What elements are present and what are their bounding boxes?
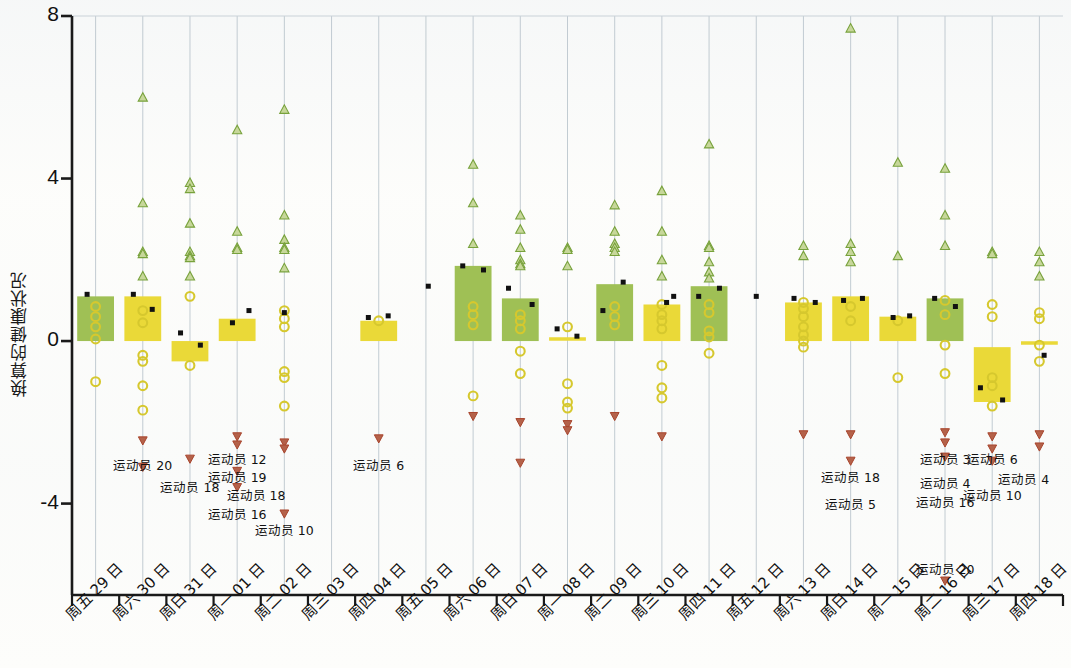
marker-square-icon: [978, 385, 983, 390]
marker-triangle-up-icon: [846, 257, 855, 266]
marker-triangle-up-icon: [846, 24, 855, 33]
marker-square-icon: [131, 292, 136, 297]
marker-square-icon: [792, 296, 797, 301]
marker-square-icon: [530, 302, 535, 307]
marker-triangle-up-icon: [233, 227, 242, 236]
marker-triangle-down-icon: [233, 433, 242, 441]
marker-triangle-up-icon: [893, 251, 902, 260]
marker-triangle-up-icon: [799, 251, 808, 260]
marker-square-icon: [460, 263, 465, 268]
marker-square-icon: [1000, 397, 1005, 402]
data-point-annotation: 运动员 18: [821, 467, 880, 486]
marker-triangle-down-icon: [799, 431, 808, 439]
marker-triangle-up-icon: [138, 198, 147, 207]
chart-root: 换算的健康状况 840-4 周五 29 日周六 30 日周日 31 日周一 01…: [0, 0, 1071, 668]
marker-triangle-up-icon: [799, 241, 808, 250]
data-point-annotation: 运动员 6: [353, 455, 404, 474]
marker-square-icon: [230, 320, 235, 325]
y-axis-tick-label: 8: [14, 2, 59, 26]
marker-triangle-up-icon: [1035, 257, 1044, 266]
marker-triangle-up-icon: [280, 210, 289, 219]
marker-square-icon: [932, 296, 937, 301]
marker-triangle-up-icon: [185, 271, 194, 280]
marker-square-icon: [841, 298, 846, 303]
marker-triangle-up-icon: [280, 105, 289, 114]
data-point-annotation: 运动员 3: [920, 449, 971, 468]
y-axis-tick-label: -4: [14, 490, 59, 514]
marker-triangle-up-icon: [657, 255, 666, 264]
marker-triangle-up-icon: [516, 243, 525, 252]
bar-range: [974, 347, 1011, 402]
y-axis-tick-label: 4: [14, 165, 59, 189]
marker-triangle-down-icon: [941, 429, 950, 437]
marker-square-icon: [953, 304, 958, 309]
marker-triangle-down-icon: [988, 433, 997, 441]
marker-square-icon: [1042, 353, 1047, 358]
marker-triangle-down-icon: [610, 412, 619, 420]
data-point-annotation: 运动员 20: [916, 559, 975, 578]
marker-triangle-up-icon: [704, 139, 713, 148]
marker-triangle-up-icon: [185, 219, 194, 228]
marker-triangle-up-icon: [516, 210, 525, 219]
marker-triangle-up-icon: [846, 247, 855, 256]
marker-triangle-up-icon: [940, 241, 949, 250]
marker-triangle-up-icon: [704, 257, 713, 266]
marker-square-icon: [574, 334, 579, 339]
data-point-annotation: 运动员 10: [963, 485, 1022, 504]
data-point-annotation: 运动员 18: [227, 485, 286, 504]
marker-triangle-down-icon: [516, 459, 525, 467]
marker-square-icon: [481, 267, 486, 272]
marker-square-icon: [282, 310, 287, 315]
marker-triangle-up-icon: [657, 186, 666, 195]
marker-triangle-up-icon: [610, 200, 619, 209]
marker-square-icon: [813, 300, 818, 305]
marker-triangle-down-icon: [846, 457, 855, 465]
marker-square-icon: [555, 326, 560, 331]
marker-square-icon: [671, 294, 676, 299]
data-point-annotation: 运动员 6: [967, 449, 1018, 468]
marker-triangle-up-icon: [516, 225, 525, 234]
data-point-annotation: 运动员 10: [255, 520, 314, 539]
marker-square-icon: [600, 308, 605, 313]
marker-triangle-up-icon: [1035, 271, 1044, 280]
marker-triangle-down-icon: [657, 433, 666, 441]
marker-square-icon: [664, 300, 669, 305]
marker-square-icon: [891, 315, 896, 320]
marker-square-icon: [246, 308, 251, 313]
marker-square-icon: [198, 343, 203, 348]
marker-triangle-down-icon: [138, 437, 147, 445]
marker-triangle-up-icon: [610, 227, 619, 236]
marker-square-icon: [426, 284, 431, 289]
marker-triangle-up-icon: [138, 93, 147, 102]
marker-triangle-down-icon: [941, 439, 950, 447]
data-point-annotation: 运动员 19: [208, 467, 267, 486]
marker-triangle-down-icon: [846, 431, 855, 439]
marker-triangle-down-icon: [516, 419, 525, 427]
marker-square-icon: [860, 296, 865, 301]
marker-square-icon: [621, 280, 626, 285]
marker-triangle-up-icon: [469, 239, 478, 248]
marker-triangle-down-icon: [280, 510, 289, 518]
marker-triangle-up-icon: [657, 227, 666, 236]
marker-triangle-up-icon: [563, 261, 572, 270]
marker-triangle-down-icon: [233, 441, 242, 449]
data-point-annotation: 运动员 5: [825, 494, 876, 513]
bar-range: [879, 317, 916, 341]
marker-square-icon: [506, 286, 511, 291]
marker-triangle-up-icon: [893, 158, 902, 167]
marker-triangle-up-icon: [940, 164, 949, 173]
marker-triangle-up-icon: [138, 271, 147, 280]
bar-range: [172, 341, 209, 361]
y-axis-tick-label: 0: [14, 327, 59, 351]
marker-square-icon: [907, 313, 912, 318]
bar-range: [360, 321, 397, 341]
marker-square-icon: [696, 294, 701, 299]
marker-triangle-up-icon: [469, 160, 478, 169]
marker-triangle-down-icon: [280, 445, 289, 453]
data-point-annotation: 运动员 12: [208, 449, 267, 468]
marker-triangle-up-icon: [469, 198, 478, 207]
marker-triangle-down-icon: [374, 435, 383, 443]
marker-square-icon: [178, 330, 183, 335]
marker-triangle-up-icon: [940, 210, 949, 219]
marker-triangle-up-icon: [1035, 247, 1044, 256]
